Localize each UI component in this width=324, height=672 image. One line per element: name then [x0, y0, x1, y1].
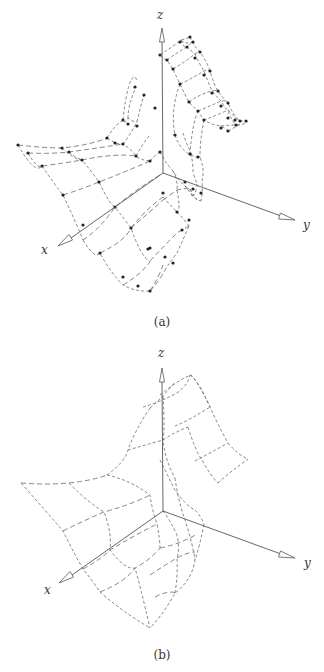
control-points-a [16, 35, 247, 292]
y-axis-line [163, 173, 281, 216]
x-axis-label: x [41, 243, 48, 257]
z-axis-label: z [156, 8, 164, 22]
figure-canvas: z y x (a) [0, 0, 324, 672]
z-axis-label: z [157, 346, 165, 360]
x-axis-line [71, 173, 163, 238]
x-axis-arrow-icon [59, 572, 74, 584]
surface-mesh-b [21, 375, 248, 628]
y-axis-arrow-icon [279, 551, 296, 558]
caption-b: (b) [153, 648, 170, 662]
y-axis-label: y [303, 556, 311, 570]
y-axis-label: y [302, 218, 310, 232]
y-axis-line [163, 511, 281, 554]
caption-a: (a) [154, 315, 171, 329]
z-axis-arrow-icon [160, 28, 165, 42]
x-axis-label: x [44, 583, 51, 597]
panel-b: z y x (b) [21, 346, 311, 662]
x-axis-line [72, 511, 163, 575]
y-axis-arrow-icon [279, 213, 296, 220]
x-axis-arrow-icon [58, 235, 73, 247]
panel-a: z y x (a) [16, 8, 310, 329]
axes-b [59, 368, 295, 583]
z-axis-arrow-icon [160, 368, 165, 382]
z-axis-line [162, 42, 163, 173]
z-axis-line [162, 382, 163, 511]
surface-mesh-a [18, 37, 248, 291]
